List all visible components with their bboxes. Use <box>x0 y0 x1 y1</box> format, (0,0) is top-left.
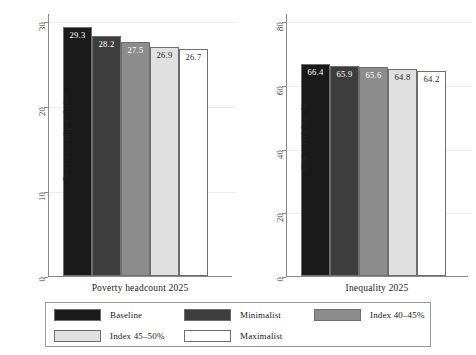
poverty-x-axis-line <box>48 276 232 277</box>
y-tick-label: 20 <box>276 213 285 233</box>
legend-label: Minimalist <box>240 310 281 320</box>
poverty-y-axis-title: Percentage of population <box>61 67 71 207</box>
legend-row: BaselineMinimalistIndex 40–45% <box>46 304 430 325</box>
poverty-plot-area: 0102030 29.328.227.526.926.7 Percentage … <box>48 22 232 277</box>
bar: 65.6 <box>359 67 388 276</box>
bar-value-label: 28.2 <box>93 40 120 49</box>
y-tick-label: 20 <box>38 107 47 127</box>
y-tick-label: 40 <box>276 150 285 170</box>
legend-item[interactable]: Index 45–50% <box>54 325 184 346</box>
poverty-bars: 29.328.227.526.926.7 <box>49 22 232 276</box>
bar-value-label: 27.5 <box>122 46 149 55</box>
bar-value-label: 65.6 <box>360 71 387 80</box>
y-tick-label: 60 <box>276 86 285 106</box>
bar-value-label: 64.8 <box>389 73 416 82</box>
y-tick-label: 0 <box>38 277 47 297</box>
legend-item[interactable]: Index 40–45% <box>314 304 434 325</box>
poverty-x-axis-label: Poverty headcount 2025 <box>48 283 232 293</box>
bar: 64.2 <box>417 71 446 276</box>
inequality-y-axis-title: Gini coefficient, % <box>299 67 309 207</box>
bar: 28.2 <box>92 36 121 276</box>
legend-swatch <box>54 309 101 321</box>
inequality-panel: 020406080 66.465.965.664.864.2 Gini coef… <box>238 0 476 300</box>
bar-value-label: 64.2 <box>418 75 445 84</box>
bar-value-label: 29.3 <box>64 31 91 40</box>
legend-swatch <box>184 330 231 342</box>
bar: 64.8 <box>388 69 417 276</box>
legend-item[interactable]: Baseline <box>54 304 184 325</box>
bar: 26.7 <box>179 49 208 276</box>
bar-value-label: 65.9 <box>331 70 358 79</box>
inequality-x-axis-line <box>286 276 468 277</box>
legend-label: Baseline <box>110 310 142 320</box>
legend-label: Index 45–50% <box>110 331 165 341</box>
legend-label: Maximalist <box>240 331 283 341</box>
legend-row: Index 45–50%Maximalist <box>46 325 430 346</box>
y-tick-label: 80 <box>276 22 285 42</box>
legend-swatch <box>184 309 231 321</box>
bar-value-label: 26.7 <box>180 53 207 62</box>
bar-value-label: 26.9 <box>151 51 178 60</box>
inequality-bars: 66.465.965.664.864.2 <box>287 22 468 276</box>
bar: 27.5 <box>121 42 150 276</box>
inequality-plot-area: 020406080 66.465.965.664.864.2 Gini coef… <box>286 22 468 277</box>
inequality-x-axis-label: Inequality 2025 <box>286 283 468 293</box>
legend-swatch <box>54 330 101 342</box>
legend-item[interactable]: Maximalist <box>184 325 314 346</box>
bar-chart-figure: 0102030 29.328.227.526.926.7 Percentage … <box>0 0 476 355</box>
chart-legend: BaselineMinimalistIndex 40–45% Index 45–… <box>45 302 431 347</box>
y-tick-label: 10 <box>38 192 47 212</box>
y-tick-label: 0 <box>276 277 285 297</box>
legend-swatch <box>314 309 361 321</box>
bar: 65.9 <box>330 66 359 276</box>
bar: 26.9 <box>150 47 179 276</box>
legend-item[interactable]: Minimalist <box>184 304 314 325</box>
legend-label: Index 40–45% <box>370 310 425 320</box>
y-tick-label: 30 <box>38 22 47 42</box>
poverty-panel: 0102030 29.328.227.526.926.7 Percentage … <box>0 0 240 300</box>
